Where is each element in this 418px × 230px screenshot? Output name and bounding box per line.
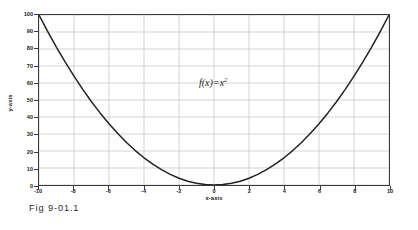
x-tick-mark xyxy=(249,186,250,190)
parabola-curve xyxy=(39,15,389,185)
y-tick-mark xyxy=(34,134,38,135)
figure-container: 0102030405060708090100 -10-8-6-4-2024681… xyxy=(0,0,418,230)
y-tick-mark xyxy=(34,117,38,118)
y-tick-mark xyxy=(34,14,38,15)
x-tick-mark xyxy=(320,186,321,190)
y-tick-label: 40 xyxy=(0,114,36,120)
x-tick-mark xyxy=(179,186,180,190)
x-axis-title: x-axis xyxy=(205,195,222,201)
y-axis-title: y-axis xyxy=(7,94,13,111)
y-tick-mark xyxy=(34,100,38,101)
x-tick-mark xyxy=(390,186,391,190)
x-tick-mark xyxy=(214,186,215,190)
y-tick-mark xyxy=(34,48,38,49)
x-tick-mark xyxy=(355,186,356,190)
y-tick-mark xyxy=(34,66,38,67)
equation-annotation: f(x)=x2 xyxy=(199,76,227,88)
y-tick-label: 90 xyxy=(0,28,36,34)
equation-exponent: 2 xyxy=(224,76,227,83)
y-tick-label: 80 xyxy=(0,45,36,51)
equation-base: f(x)=x xyxy=(199,77,224,88)
x-tick-mark xyxy=(284,186,285,190)
x-tick-mark xyxy=(38,186,39,190)
y-tick-mark xyxy=(34,152,38,153)
y-tick-mark xyxy=(34,31,38,32)
y-tick-label: 50 xyxy=(0,97,36,103)
plot-area xyxy=(38,14,390,186)
y-tick-mark xyxy=(34,83,38,84)
y-tick-label: 30 xyxy=(0,131,36,137)
y-tick-label: 70 xyxy=(0,63,36,69)
y-tick-mark xyxy=(34,169,38,170)
x-tick-mark xyxy=(144,186,145,190)
y-tick-label: 10 xyxy=(0,166,36,172)
y-tick-label: 60 xyxy=(0,80,36,86)
x-tick-mark xyxy=(108,186,109,190)
y-tick-label: 20 xyxy=(0,149,36,155)
x-tick-mark xyxy=(73,186,74,190)
y-tick-label: 100 xyxy=(0,11,36,17)
figure-caption: Fig 9-01.1 xyxy=(29,203,79,213)
